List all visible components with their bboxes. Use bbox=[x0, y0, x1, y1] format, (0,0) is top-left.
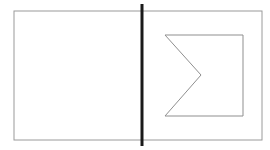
figure-canvas bbox=[0, 0, 270, 150]
figure-svg bbox=[0, 0, 270, 150]
outer-frame-rectangle bbox=[14, 11, 262, 140]
sigma-chevron-shape bbox=[165, 35, 243, 116]
